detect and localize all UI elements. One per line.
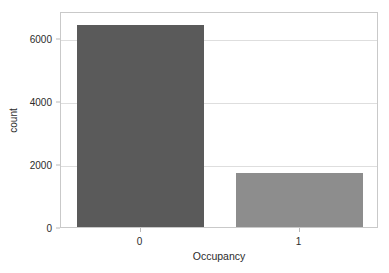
bar[interactable] xyxy=(236,173,363,227)
bar-chart-figure: count 0200040006000 01 Occupancy xyxy=(0,0,389,273)
bar[interactable] xyxy=(77,25,204,227)
y-tick-label: 4000 xyxy=(30,97,52,108)
x-tick-mark xyxy=(299,228,300,232)
y-tick-label: 6000 xyxy=(30,34,52,45)
x-tick-label: 1 xyxy=(296,236,302,247)
x-tick-mark xyxy=(140,228,141,232)
x-axis-title: Occupancy xyxy=(60,250,378,262)
y-tick-label: 2000 xyxy=(30,160,52,171)
x-tick-label: 0 xyxy=(137,236,143,247)
y-axis: 0200040006000 xyxy=(0,12,60,228)
x-axis: 01 xyxy=(60,228,378,248)
y-tick-label: 0 xyxy=(46,223,52,234)
plot-area xyxy=(60,12,378,228)
